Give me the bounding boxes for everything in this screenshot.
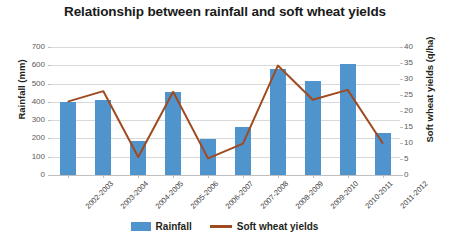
x-axis-tickmark	[103, 175, 104, 178]
y-axis-right-tickmark	[400, 159, 403, 160]
y-axis-right-tickmark	[400, 47, 403, 48]
legend-label-soft-wheat-yields: Soft wheat yields	[237, 221, 319, 232]
y-axis-left-tickmark	[48, 157, 51, 158]
y-axis-left-tick-label: 400	[11, 98, 45, 106]
y-axis-left-tick-label: 100	[11, 153, 45, 161]
line-series-soft-wheat-yields	[51, 47, 400, 175]
plot-area	[51, 47, 400, 175]
x-axis-tickmark	[243, 175, 244, 178]
y-axis-right-tick-label: 20	[404, 107, 426, 115]
y-axis-left-tickmark	[48, 84, 51, 85]
y-axis-right-tickmark	[400, 79, 403, 80]
y-axis-left-tick-label: 300	[11, 116, 45, 124]
legend-item-rainfall[interactable]: Rainfall	[131, 221, 192, 232]
chart-container: Relationship between rainfall and soft w…	[0, 0, 449, 248]
y-axis-left-tickmark	[48, 120, 51, 121]
y-axis-right-tick-label: 35	[404, 59, 426, 67]
x-axis-tickmark	[313, 175, 314, 178]
y-axis-right-tickmark	[400, 143, 403, 144]
y-axis-left-tick-label: 0	[11, 171, 45, 179]
y-axis-left-tick-label: 700	[11, 43, 45, 51]
x-axis-tickmark	[208, 175, 209, 178]
x-axis-tick-label: 2005-2006	[189, 179, 221, 211]
y-axis-left-tickmark	[48, 47, 51, 48]
y-axis-right-tick-label: 25	[404, 91, 426, 99]
y-axis-right-tick-label: 10	[404, 139, 426, 147]
chart-legend: Rainfall Soft wheat yields	[0, 221, 449, 232]
x-axis-tick-label: 2004-2005	[154, 179, 186, 211]
x-axis-tick-label: 2008-2009	[293, 179, 325, 211]
legend-item-soft-wheat-yields[interactable]: Soft wheat yields	[210, 221, 319, 232]
legend-line-swatch-icon	[210, 225, 232, 228]
x-axis-tick-label: 2007-2008	[258, 179, 290, 211]
legend-label-rainfall: Rainfall	[156, 221, 192, 232]
y-axis-left-tick-label: 200	[11, 134, 45, 142]
y-axis-right-tick-label: 5	[404, 155, 426, 163]
chart-title: Relationship between rainfall and soft w…	[40, 4, 410, 20]
x-axis-tick-label: 2011-2012	[398, 179, 429, 210]
legend-bar-swatch-icon	[131, 222, 151, 231]
x-axis-tick-label: 2002-2003	[84, 179, 116, 211]
y-axis-right-tick-label: 30	[404, 75, 426, 83]
y-axis-right-tickmark	[400, 175, 403, 176]
x-axis-tick-label: 2010-2011	[363, 179, 394, 210]
y-axis-right-tick-label: 40	[404, 43, 426, 51]
x-axis-tickmark	[278, 175, 279, 178]
x-axis-tickmark	[348, 175, 349, 178]
y-axis-left-tickmark	[48, 65, 51, 66]
x-axis-tickmark	[68, 175, 69, 178]
x-axis-tickmark	[173, 175, 174, 178]
x-axis-tickmark	[383, 175, 384, 178]
x-axis-tick-label: 2006-2007	[224, 179, 256, 211]
y-axis-left-tick-label: 600	[11, 61, 45, 69]
y-axis-right-tickmark	[400, 127, 403, 128]
x-axis-tick-label: 2003-2004	[119, 179, 151, 211]
y-axis-left-tickmark	[48, 175, 51, 176]
y-axis-right-tick-label: 15	[404, 123, 426, 131]
x-axis-tickmark	[138, 175, 139, 178]
y-axis-left-tickmark	[48, 138, 51, 139]
y-axis-right-tickmark	[400, 111, 403, 112]
x-axis-tick-label: 2009-2010	[328, 179, 360, 211]
y-axis-left-tick-label: 500	[11, 80, 45, 88]
y-axis-left-tickmark	[48, 102, 51, 103]
y-axis-right-tickmark	[400, 95, 403, 96]
y-axis-right-tickmark	[400, 63, 403, 64]
